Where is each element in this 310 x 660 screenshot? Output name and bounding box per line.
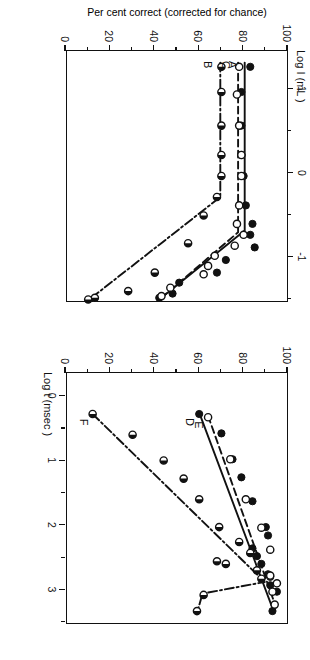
x-tick xyxy=(59,395,65,396)
y-tick-label: 100 xyxy=(281,346,293,364)
y-tick-label: 80 xyxy=(237,352,249,364)
y-tick-label: 60 xyxy=(192,30,204,42)
y-tick-label: 0 xyxy=(59,358,71,364)
x-axis-title: Log t (msec ) xyxy=(42,372,54,436)
y-tick-label: 80 xyxy=(237,30,249,42)
x-tick-label: 2 xyxy=(46,522,58,528)
y-tick-label: 20 xyxy=(103,352,115,364)
y-tick-label: 100 xyxy=(281,24,293,42)
x-minor-tick xyxy=(61,557,65,558)
series-f xyxy=(89,410,265,614)
y-tick-label: 40 xyxy=(148,30,160,42)
x-tick xyxy=(59,524,65,525)
x-minor-tick xyxy=(61,427,65,428)
y-tick-label: 40 xyxy=(148,352,160,364)
x-tick xyxy=(59,589,65,590)
x-minor-tick xyxy=(61,621,65,622)
x-tick-label: -1 xyxy=(296,252,308,261)
x-tick-label: 3 xyxy=(46,587,58,593)
series-e xyxy=(204,414,280,609)
x-tick-label: 0 xyxy=(296,170,308,176)
curve-label-e: E xyxy=(193,421,205,428)
y-tick-label: 0 xyxy=(59,36,71,42)
curve-label-c: C xyxy=(220,61,232,69)
panel-left: Log I (mL ) 10080604020010-1 Per cent co… xyxy=(0,8,310,326)
figure-stage: Log I (mL ) 10080604020010-1 Per cent co… xyxy=(0,0,310,660)
x-tick-label: 1 xyxy=(46,457,58,463)
y-tick-label: 60 xyxy=(192,352,204,364)
panel-left-top-title: Log I (mL ) xyxy=(295,50,307,103)
x-tick xyxy=(59,460,65,461)
panel-right-data xyxy=(66,372,288,624)
y-tick-label: 20 xyxy=(103,30,115,42)
panel-left-data xyxy=(66,50,288,302)
panel-right: 1008060402000123 Log t (msec ) D E F xyxy=(0,330,310,648)
x-tick-label: 1 xyxy=(296,86,308,92)
curve-label-f: F xyxy=(78,419,90,426)
x-minor-tick xyxy=(61,492,65,493)
curve-label-b: B xyxy=(202,61,214,68)
y-axis-title: Per cent correct (corrected for chance) xyxy=(87,6,267,18)
